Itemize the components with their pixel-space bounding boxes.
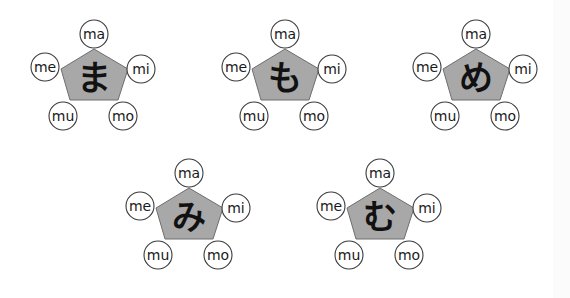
syllable-label: mi: [227, 200, 245, 216]
syllable-circle-bottom-right[interactable]: mo: [395, 241, 423, 269]
syllable-label: mu: [434, 108, 457, 124]
syllable-label: mu: [52, 108, 75, 124]
syllable-circle-top[interactable]: ma: [175, 159, 203, 187]
syllable-label: mo: [112, 108, 134, 124]
syllable-circle-right[interactable]: mi: [127, 55, 155, 83]
syllable-label: ma: [83, 26, 105, 42]
syllable-label: ma: [369, 165, 391, 181]
syllable-circle-right[interactable]: mi: [509, 55, 537, 83]
syllable-label: me: [34, 59, 56, 75]
syllable-label: me: [320, 198, 342, 214]
syllable-label: mi: [418, 200, 436, 216]
syllable-circle-left[interactable]: me: [222, 53, 250, 81]
syllable-circle-right[interactable]: mi: [413, 194, 441, 222]
kana-group-1: ま ma me mi mu mo: [31, 20, 155, 130]
syllable-circle-left[interactable]: me: [413, 53, 441, 81]
syllable-label: ma: [178, 165, 200, 181]
syllable-circle-right[interactable]: mi: [318, 55, 346, 83]
syllable-circle-left[interactable]: me: [31, 53, 59, 81]
syllable-circle-bottom-left[interactable]: mu: [431, 102, 459, 130]
kana-group-2: も ma me mi mu mo: [222, 20, 346, 130]
syllable-circle-bottom-right[interactable]: mo: [300, 102, 328, 130]
kana-character: め: [459, 58, 493, 98]
kana-character: ま: [77, 58, 111, 98]
syllable-label: me: [129, 198, 151, 214]
kana-character: む: [363, 197, 397, 237]
syllable-label: ma: [274, 26, 296, 42]
syllable-label: mo: [398, 247, 420, 263]
syllable-label: ma: [465, 26, 487, 42]
syllable-circle-top[interactable]: ma: [271, 20, 299, 48]
syllable-circle-right[interactable]: mi: [222, 194, 250, 222]
syllable-label: mu: [338, 247, 361, 263]
kana-character: も: [268, 58, 302, 98]
syllable-label: mu: [147, 247, 170, 263]
syllable-label: mo: [494, 108, 516, 124]
syllable-circle-bottom-left[interactable]: mu: [49, 102, 77, 130]
kana-diagram: ま ma me mi mu mo も ma me: [0, 0, 570, 298]
syllable-circle-top[interactable]: ma: [366, 159, 394, 187]
syllable-circle-bottom-right[interactable]: mo: [491, 102, 519, 130]
syllable-circle-bottom-left[interactable]: mu: [240, 102, 268, 130]
syllable-circle-left[interactable]: me: [317, 192, 345, 220]
kana-group-3: め ma me mi mu mo: [413, 20, 537, 130]
syllable-circle-bottom-right[interactable]: mo: [204, 241, 232, 269]
kana-group-5: む ma me mi mu mo: [317, 159, 441, 269]
syllable-label: mo: [207, 247, 229, 263]
syllable-circle-bottom-left[interactable]: mu: [335, 241, 363, 269]
kana-group-4: み ma me mi mu mo: [126, 159, 250, 269]
syllable-label: mi: [323, 61, 341, 77]
syllable-label: mu: [243, 108, 266, 124]
syllable-circle-left[interactable]: me: [126, 192, 154, 220]
syllable-circle-bottom-right[interactable]: mo: [109, 102, 137, 130]
syllable-label: me: [416, 59, 438, 75]
syllable-label: mo: [303, 108, 325, 124]
syllable-label: mi: [132, 61, 150, 77]
kana-character: み: [172, 197, 206, 237]
syllable-circle-bottom-left[interactable]: mu: [144, 241, 172, 269]
syllable-label: mi: [514, 61, 532, 77]
syllable-circle-top[interactable]: ma: [462, 20, 490, 48]
syllable-circle-top[interactable]: ma: [80, 20, 108, 48]
syllable-label: me: [225, 59, 247, 75]
